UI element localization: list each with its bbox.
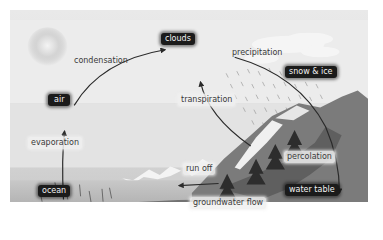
node-ocean: ocean (38, 185, 70, 197)
node-clouds: clouds (161, 33, 195, 45)
sun-icon (27, 27, 68, 68)
node-snow-ice: snow & ice (285, 66, 337, 78)
label-condensation: condensation (71, 55, 131, 67)
node-water-table: water table (285, 184, 339, 196)
label-evaporation: evaporation (28, 137, 82, 149)
node-air: air (48, 94, 70, 106)
label-groundwater-flow: groundwater flow (190, 197, 266, 209)
label-transpiration: transpiration (178, 94, 235, 106)
label-percolation: percolation (284, 151, 335, 163)
label-run-off: run off (183, 163, 215, 175)
label-precipitation: precipitation (229, 47, 285, 59)
